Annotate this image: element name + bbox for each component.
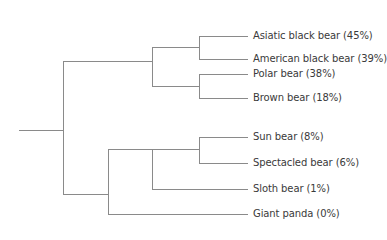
leaf-label-giant-panda: Giant panda (0%) [253, 208, 340, 220]
leaf-label-brown-bear: Brown bear (18%) [253, 92, 342, 104]
leaf-label-polar-bear: Polar bear (38%) [253, 68, 335, 80]
leaf-label-spectacled-bear: Spectacled bear (6%) [253, 157, 359, 169]
leaf-label-sloth-bear: Sloth bear (1%) [253, 183, 330, 195]
leaf-label-asiatic-black-bear: Asiatic black bear (45%) [253, 30, 373, 42]
leaf-label-sun-bear: Sun bear (8%) [253, 131, 324, 143]
leaf-label-american-black-bear: American black bear (39%) [253, 53, 387, 65]
